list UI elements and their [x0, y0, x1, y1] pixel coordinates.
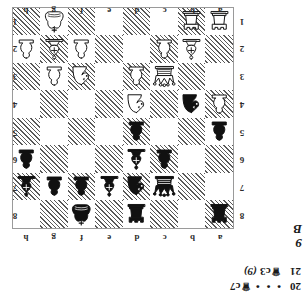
rank-label-right-4: 4: [9, 90, 21, 118]
rank-label-left-8: 8: [236, 201, 248, 229]
rank-label-left-1: 1: [236, 7, 248, 35]
file-label-top-a: a: [206, 232, 234, 243]
white-bishop-icon: [178, 36, 206, 64]
square-g2[interactable]: [41, 36, 69, 64]
chessboard[interactable]: [12, 7, 234, 229]
file-label-bottom-g: g: [40, 5, 68, 16]
square-g6[interactable]: [41, 146, 69, 174]
square-a6[interactable]: [206, 146, 234, 174]
side-to-move-indicator: B: [293, 222, 302, 236]
black-pawn-icon: [151, 146, 179, 174]
file-label-bottom-e: e: [95, 5, 123, 16]
move-line-20: 20 • • • ♕c7: [151, 279, 301, 294]
square-g7[interactable]: [41, 173, 69, 201]
diagram-label: 9 B: [293, 222, 302, 250]
square-b4[interactable]: [178, 91, 206, 119]
black-pawn-icon: [68, 173, 96, 201]
square-f2[interactable]: [68, 36, 96, 64]
file-label-bottom-b: b: [179, 5, 207, 16]
white-knight-icon: [123, 91, 151, 119]
square-c5[interactable]: [151, 118, 179, 146]
move-20-content: • • • ♕c7: [230, 279, 281, 294]
rank-label-left-7: 7: [236, 174, 248, 202]
file-label-top-f: f: [68, 232, 96, 243]
square-e5[interactable]: [96, 118, 124, 146]
black-knight-icon: [123, 173, 151, 201]
square-e2[interactable]: [96, 36, 124, 64]
move-20-square: c7: [230, 281, 241, 293]
chess-diagram-page: 20 • • • ♕c7 21 ♕c3 (9) 9 B abcdef: [0, 0, 307, 298]
move-number-21: 21: [281, 264, 301, 279]
move-number-20: 20: [281, 279, 301, 294]
square-d4[interactable]: [123, 91, 151, 119]
square-e3[interactable]: [96, 63, 124, 91]
white-pawn-icon: [206, 91, 234, 119]
queen-icon-move-21: ♕: [271, 266, 281, 278]
move-notation: 20 • • • ♕c7 21 ♕c3 (9): [151, 264, 301, 294]
square-f5[interactable]: [68, 118, 96, 146]
square-c3[interactable]: [151, 63, 179, 91]
move-21-evaluation: (9): [244, 264, 257, 279]
square-b8[interactable]: [178, 201, 206, 229]
square-b5[interactable]: [178, 118, 206, 146]
square-f4[interactable]: [68, 91, 96, 119]
square-e4[interactable]: [96, 91, 124, 119]
move-ellipsis: • • •: [254, 281, 281, 293]
square-a5[interactable]: [206, 118, 234, 146]
chessboard-block: abcdefghabcdefgh8765432187654321: [8, 3, 248, 243]
square-b7[interactable]: [178, 173, 206, 201]
move-line-21: 21 ♕c3 (9): [151, 264, 301, 279]
chess-diagram-inner: 20 • • • ♕c7 21 ♕c3 (9) 9 B abcdef: [0, 0, 307, 298]
rank-label-right-2: 2: [9, 35, 21, 63]
move-21-content: ♕c3: [260, 264, 281, 279]
square-g5[interactable]: [41, 118, 69, 146]
rank-label-left-2: 2: [236, 35, 248, 63]
file-label-top-g: g: [40, 232, 68, 243]
white-queen-icon: [151, 63, 179, 91]
white-knight-icon: [68, 63, 96, 91]
square-f3[interactable]: [68, 63, 96, 91]
square-d2[interactable]: [123, 36, 151, 64]
rank-label-right-3: 3: [9, 63, 21, 91]
black-pawn-icon: [123, 118, 151, 146]
file-label-bottom-d: d: [123, 5, 151, 16]
square-a4[interactable]: [206, 91, 234, 119]
square-a8[interactable]: [206, 201, 234, 229]
square-f8[interactable]: [68, 201, 96, 229]
file-label-bottom-c: c: [151, 5, 179, 16]
file-label-top-c: c: [151, 232, 179, 243]
rank-label-left-3: 3: [236, 63, 248, 91]
square-d5[interactable]: [123, 118, 151, 146]
square-f6[interactable]: [68, 146, 96, 174]
queen-icon-move-20: ♕: [241, 281, 251, 293]
square-b3[interactable]: [178, 63, 206, 91]
square-c4[interactable]: [151, 91, 179, 119]
square-c6[interactable]: [151, 146, 179, 174]
square-a7[interactable]: [206, 173, 234, 201]
square-c7[interactable]: [151, 173, 179, 201]
black-king-icon: [68, 201, 96, 229]
rank-label-right-1: 1: [9, 7, 21, 35]
square-e6[interactable]: [96, 146, 124, 174]
square-g8[interactable]: [41, 201, 69, 229]
rank-label-left-4: 4: [236, 90, 248, 118]
square-a2[interactable]: [206, 36, 234, 64]
rank-label-right-7: 7: [9, 174, 21, 202]
square-b2[interactable]: [178, 36, 206, 64]
square-g4[interactable]: [41, 91, 69, 119]
square-e8[interactable]: [96, 201, 124, 229]
square-c2[interactable]: [151, 36, 179, 64]
square-c8[interactable]: [151, 201, 179, 229]
square-e7[interactable]: [96, 173, 124, 201]
square-a3[interactable]: [206, 63, 234, 91]
square-b6[interactable]: [178, 146, 206, 174]
rank-label-right-8: 8: [9, 201, 21, 229]
black-rook-icon: [123, 201, 151, 229]
square-g3[interactable]: [41, 63, 69, 91]
square-f7[interactable]: [68, 173, 96, 201]
square-d7[interactable]: [123, 173, 151, 201]
square-d3[interactable]: [123, 63, 151, 91]
square-d8[interactable]: [123, 201, 151, 229]
square-d6[interactable]: [123, 146, 151, 174]
file-label-top-e: e: [95, 232, 123, 243]
